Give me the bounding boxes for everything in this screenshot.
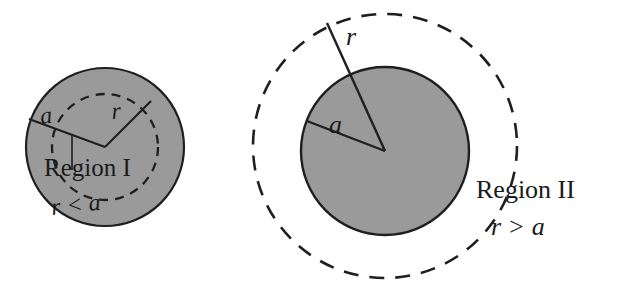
region-one-region-label: Region I (44, 154, 131, 181)
diagram-canvas: a r Region I r < a a r Region II (0, 0, 620, 290)
physics-region-diagram: a r Region I r < a a r Region II (0, 0, 620, 290)
region-two-relation-label: r > a (491, 212, 545, 241)
region-two-region-label: Region II (476, 175, 575, 204)
panel-region-two: a r Region II r > a (253, 14, 575, 278)
region-two-label-r: r (346, 22, 357, 51)
region-one-relation-label: r < a (50, 189, 102, 220)
panel-region-one: a r Region I r < a (26, 68, 184, 226)
region-two-label-a: a (329, 110, 342, 139)
